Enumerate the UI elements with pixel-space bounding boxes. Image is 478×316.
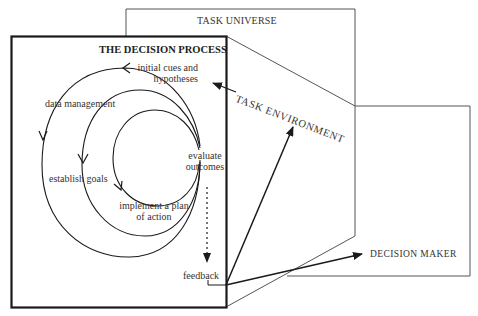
label-feedback: feedback (183, 270, 219, 281)
arrow-task-env-to-process (213, 83, 236, 92)
label-data-management: data management (45, 98, 115, 109)
label-initial-cues: initial cues and hypotheses (132, 62, 198, 84)
task-universe-label: TASK UNIVERSE (197, 15, 277, 26)
initial-cues-line1: initial cues and (132, 62, 198, 73)
evaluate-line1: evaluate (182, 150, 228, 161)
decision-cycles (42, 68, 200, 257)
arrow-to-task-environment (226, 127, 293, 285)
initial-cues-line2: hypotheses (132, 73, 198, 84)
decision-maker-label: DECISION MAKER (370, 249, 457, 260)
task-environment-panel (226, 36, 470, 307)
label-establish-goals: establish goals (49, 173, 108, 184)
diagram-canvas (0, 0, 478, 316)
implement-line1: implement a plan (113, 200, 195, 211)
evaluate-line2: outcomes (182, 161, 228, 172)
arrow-to-decision-maker (226, 254, 362, 285)
cycle-arrowheads (39, 63, 130, 190)
decision-process-title: THE DECISION PROCESS (99, 44, 227, 55)
implement-line2: of action (113, 211, 195, 222)
label-implement-plan: implement a plan of action (113, 200, 195, 222)
label-evaluate-outcomes: evaluate outcomes (182, 150, 228, 172)
